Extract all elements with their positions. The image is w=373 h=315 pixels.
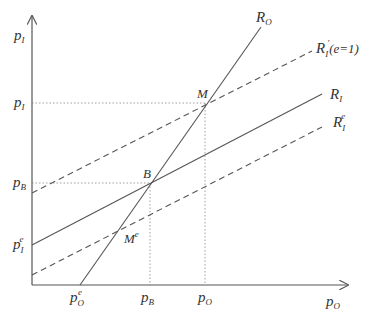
x-tick-pO: pO [197,289,213,307]
y-tick-pI: pI [13,94,26,112]
label-R-O: RO [255,9,272,27]
economics-diagram: pI pO pI pB pIe pOe pB pO RO RI′(e=1) RI… [0,0,373,315]
y-tick-pI-e: pIe [12,234,25,255]
label-R-I: RI [329,86,343,104]
point-B: B [143,166,151,181]
y-axis-label: pI [13,27,26,45]
point-M: M [196,86,209,101]
curve-R-O [80,27,261,285]
curve-R-I-e [32,127,322,275]
y-tick-pB: pB [12,174,27,192]
x-axis-label: pO [325,293,341,311]
point-M-e: Me [123,229,139,246]
curve-R-I [32,94,322,245]
label-R-I-e: RIe [332,111,346,133]
label-R-I-prime: RI′(e=1) [315,38,359,59]
x-tick-pO-e: pOe [69,287,85,308]
x-tick-pB: pB [140,289,155,307]
